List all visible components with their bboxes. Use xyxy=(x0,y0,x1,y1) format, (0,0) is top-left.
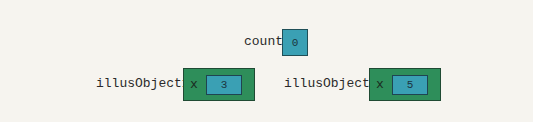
count-label: count xyxy=(244,34,283,50)
object1-field-value: 3 xyxy=(221,79,228,91)
object1-field-name: x xyxy=(190,77,198,92)
count-value-box: 0 xyxy=(282,29,308,56)
object1-field-value-box: 3 xyxy=(206,75,242,95)
object1-box: x 3 xyxy=(183,68,255,101)
object2-box: x 5 xyxy=(369,68,441,101)
count-value: 0 xyxy=(292,37,299,49)
object2-field-value: 5 xyxy=(407,79,414,91)
object2-field-name: x xyxy=(376,77,384,92)
object2-field-value-box: 5 xyxy=(392,75,428,95)
object1-label: illusObject1 xyxy=(96,76,190,92)
object2-label: illusObject2 xyxy=(284,76,378,92)
